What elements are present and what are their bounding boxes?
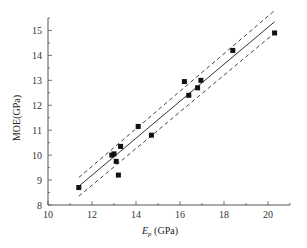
y-axis-label: MOE(GPa) xyxy=(11,95,23,141)
x-tick-label: 16 xyxy=(175,209,185,220)
y-tick-label: 15 xyxy=(32,25,42,36)
fit-lines xyxy=(79,11,275,197)
x-tick-label: 18 xyxy=(219,209,229,220)
x-axis-label: Ep (GPa) xyxy=(141,225,178,238)
fit-line xyxy=(79,22,275,187)
lower-bound-line xyxy=(79,33,275,196)
upper-bound-line xyxy=(79,11,275,178)
data-points xyxy=(76,30,277,190)
y-tick-label: 9 xyxy=(37,175,42,186)
data-point xyxy=(230,48,235,53)
y-tick-label: 11 xyxy=(32,125,42,136)
y-tick-label: 8 xyxy=(37,200,42,211)
data-point xyxy=(149,133,154,138)
data-point xyxy=(118,144,123,149)
y-tick-label: 12 xyxy=(32,100,42,111)
y-tick-label: 13 xyxy=(32,75,42,86)
axes: 10121416182089101112131415 xyxy=(32,18,290,220)
scatter-chart: 10121416182089101112131415 MOE(GPa) Ep (… xyxy=(0,0,307,248)
x-tick-label: 14 xyxy=(131,209,141,220)
data-point xyxy=(116,173,121,178)
x-tick-label: 10 xyxy=(43,209,53,220)
data-point xyxy=(272,30,277,35)
data-point xyxy=(112,151,117,156)
data-point xyxy=(76,185,81,190)
data-point xyxy=(182,79,187,84)
x-tick-label: 20 xyxy=(263,209,273,220)
y-tick-label: 10 xyxy=(32,150,42,161)
data-point xyxy=(195,85,200,90)
data-point xyxy=(114,159,119,164)
data-point xyxy=(186,93,191,98)
x-tick-label: 12 xyxy=(87,209,97,220)
data-point xyxy=(198,78,203,83)
data-point xyxy=(136,124,141,129)
y-tick-label: 14 xyxy=(32,50,42,61)
